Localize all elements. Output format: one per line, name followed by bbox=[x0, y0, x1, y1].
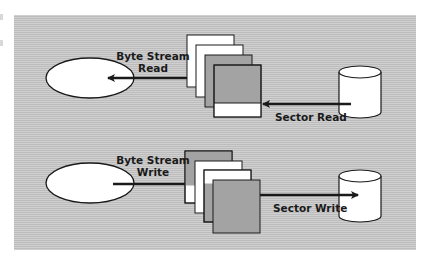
byte-stream-read-label: Byte Stream bbox=[116, 50, 190, 62]
byte-stream-read-label-2: Read bbox=[138, 62, 168, 74]
sector-write-label: Sector Write bbox=[273, 202, 347, 214]
buffer-block-filled-part bbox=[215, 103, 261, 117]
buffer-block bbox=[213, 180, 260, 233]
read-buffer-stack bbox=[187, 35, 261, 117]
write-path: Byte Stream Write Sector Write bbox=[46, 151, 381, 233]
write-buffer-stack bbox=[185, 151, 260, 233]
sector-read-label: Sector Read bbox=[275, 111, 347, 123]
byte-stream-write-label-2: Write bbox=[137, 166, 169, 178]
read-path: Byte Stream Read Sector Read bbox=[46, 35, 381, 123]
byte-stream-write-label: Byte Stream bbox=[116, 154, 190, 166]
buffered-io-diagram: Byte Stream Read Sector Read bbox=[0, 0, 427, 261]
